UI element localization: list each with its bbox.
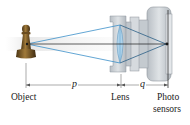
pawn-body bbox=[21, 34, 31, 50]
photo-sensors-label-line2: sensors bbox=[153, 104, 181, 114]
p-arrow-left bbox=[26, 84, 30, 87]
image-point bbox=[166, 43, 169, 46]
q-arrow-right bbox=[164, 84, 168, 87]
pawn-head bbox=[22, 25, 30, 33]
object-point bbox=[26, 43, 28, 45]
q-label: q bbox=[139, 79, 146, 89]
q-arrow-left bbox=[121, 84, 125, 87]
object-label: Object bbox=[11, 92, 36, 102]
p-label: p bbox=[71, 79, 78, 89]
lens-label: Lens bbox=[111, 92, 129, 102]
pawn-base bbox=[16, 49, 36, 59]
photo-sensors-label-line1: Photo bbox=[157, 92, 179, 102]
p-arrow-right bbox=[117, 84, 121, 87]
